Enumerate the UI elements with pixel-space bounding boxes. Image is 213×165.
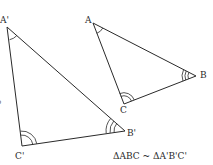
angle-arc-b-prime-2 <box>110 121 114 133</box>
vertex-label-c: C <box>120 106 127 115</box>
angle-arc-c-prime-1 <box>21 135 33 144</box>
similar-triangles-diagram <box>0 0 213 165</box>
angle-arc-b-2 <box>185 71 186 80</box>
vertex-label-b: B <box>200 71 207 80</box>
vertex-label-a: A <box>85 16 92 25</box>
angle-arc-b-3 <box>182 70 184 82</box>
similarity-caption: ΔABC ~ ΔA'B'C' <box>113 151 187 161</box>
angle-arc-b-1 <box>188 72 189 79</box>
angle-arc-a-prime <box>10 36 17 40</box>
vertex-label-a-prime: A' <box>0 16 9 25</box>
angle-arc-b-prime-1 <box>114 124 117 133</box>
angle-arc-a <box>97 28 103 33</box>
vertex-label-b-prime: B' <box>127 129 136 138</box>
triangle-a-prime-b-prime-c-prime <box>7 27 125 146</box>
cropped-edge-glyph: o <box>0 98 1 106</box>
triangle-abc <box>93 23 196 104</box>
vertex-label-c-prime: C' <box>15 152 24 161</box>
